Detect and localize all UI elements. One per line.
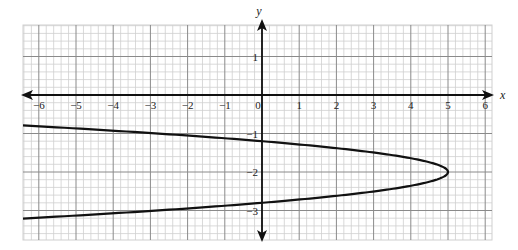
x-tick-label: 2 bbox=[334, 99, 340, 111]
x-tick-label: −5 bbox=[70, 99, 82, 111]
x-tick-label: −1 bbox=[219, 99, 231, 111]
x-tick-label: 5 bbox=[445, 99, 451, 111]
x-tick-label: 3 bbox=[371, 99, 377, 111]
y-tick-label: 1 bbox=[253, 51, 259, 63]
x-tick-label: −6 bbox=[33, 99, 45, 111]
y-tick-label: −1 bbox=[246, 128, 258, 140]
y-axis-label: y bbox=[255, 4, 262, 18]
x-tick-label: 1 bbox=[296, 99, 302, 111]
x-axis-label: x bbox=[499, 88, 506, 102]
x-tick-label: −3 bbox=[145, 99, 157, 111]
x-tick-label: 0 bbox=[255, 99, 261, 111]
x-tick-label: −4 bbox=[107, 99, 119, 111]
x-tick-label: 6 bbox=[482, 99, 488, 111]
parabola-graph: −6−5−4−3−2−101234561−1−2−3xy bbox=[0, 0, 518, 250]
y-tick-label: −3 bbox=[246, 205, 258, 217]
x-tick-label: −2 bbox=[182, 99, 194, 111]
y-tick-label: −2 bbox=[246, 166, 258, 178]
x-tick-label: 4 bbox=[408, 99, 414, 111]
